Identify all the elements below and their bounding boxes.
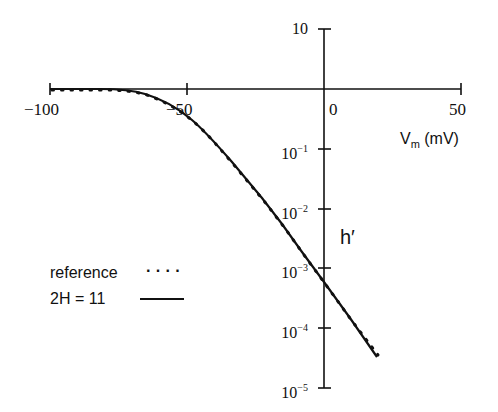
- y-tick-label: 10−3: [258, 260, 308, 281]
- x-tick-label: 50: [449, 101, 466, 118]
- y-axis-title: h′: [340, 229, 355, 246]
- y-tick-label: 10−5: [258, 380, 308, 401]
- x-axis-title: Vm (mV): [400, 130, 459, 153]
- x-tick-label: −100: [24, 101, 59, 118]
- x-tick-label: 0: [329, 101, 338, 118]
- x-tick-label: −50: [166, 101, 193, 118]
- y-tick-label: 10−1: [258, 141, 308, 162]
- y-tick-label: 10−4: [258, 320, 308, 341]
- plot-area: [0, 0, 498, 412]
- legend-fit-label: 2H = 11: [50, 290, 105, 307]
- series-2h11-line: [50, 89, 377, 357]
- legend-reference-label: reference: [50, 264, 118, 281]
- y-tick-label: 10−2: [258, 201, 308, 222]
- series-reference-dots: [52, 90, 378, 355]
- y-tick-label: 10: [258, 21, 308, 37]
- legend-dotted-mark: · · · ·: [146, 262, 181, 279]
